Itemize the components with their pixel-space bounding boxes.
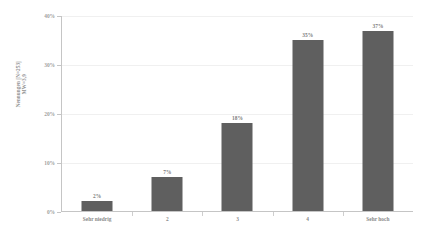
bar-value-label: 18% [232, 115, 243, 121]
y-axis-title-line2: MW=3,9 [21, 19, 27, 149]
bar-value-label: 35% [302, 32, 313, 38]
bar-value-label: 37% [373, 23, 384, 29]
x-axis-category-label: Sehr hoch [343, 216, 413, 222]
x-axis-category-label: 4 [273, 216, 343, 222]
plot-area: 0%10%20%30%40% 2%7%18%35%37% [61, 16, 413, 212]
bar [222, 123, 253, 211]
x-axis-category-label: 3 [202, 216, 272, 222]
x-axis-line [61, 211, 413, 212]
y-axis-tick-mark [57, 212, 61, 213]
bar [362, 31, 393, 211]
y-axis-tick-label: 40% [44, 13, 55, 19]
x-axis-labels: Sehr niedrig234Sehr hoch [62, 216, 413, 230]
bar-value-label: 7% [163, 169, 171, 175]
bar [152, 177, 183, 211]
x-axis-category-label: Sehr niedrig [62, 216, 132, 222]
y-axis-tick-mark [57, 65, 61, 66]
x-axis-category-label: 2 [132, 216, 202, 222]
y-axis-title: Nennungen [N=253] MW=3,9 [15, 19, 27, 149]
bar-group: 2% [62, 16, 132, 211]
bar-chart: Nennungen [N=253] MW=3,9 0%10%20%30%40% … [0, 0, 435, 241]
y-axis-tick-label: 10% [44, 160, 55, 166]
y-axis-tick-label: 30% [44, 62, 55, 68]
bar-group: 18% [202, 16, 272, 211]
bar [292, 40, 323, 211]
bar-value-label: 2% [93, 193, 101, 199]
y-axis-tick-mark [57, 16, 61, 17]
bar [82, 201, 113, 211]
bar-group: 7% [132, 16, 202, 211]
bars-layer: 2%7%18%35%37% [62, 16, 413, 211]
y-axis-tick-mark [57, 163, 61, 164]
bar-group: 37% [343, 16, 413, 211]
y-axis-tick-label: 20% [44, 111, 55, 117]
y-axis-tick-mark [57, 114, 61, 115]
bar-group: 35% [273, 16, 343, 211]
y-axis-tick-label: 0% [47, 209, 55, 215]
